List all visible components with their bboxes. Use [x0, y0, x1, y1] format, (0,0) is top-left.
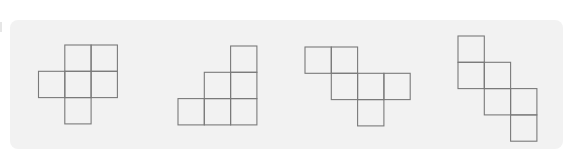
net-square [204, 99, 230, 125]
net-square [178, 99, 204, 125]
net-square [331, 73, 357, 99]
cube-nets-diagram [0, 0, 584, 158]
net-square [484, 62, 510, 88]
net-square [65, 45, 91, 71]
net-1 [39, 45, 118, 124]
net-square [511, 89, 537, 115]
net-square [91, 71, 117, 97]
net-square [91, 45, 117, 71]
net-square [358, 73, 384, 99]
net-square [231, 99, 257, 125]
net-square [511, 115, 537, 141]
net-square [204, 72, 230, 98]
net-square [331, 47, 357, 73]
net-3 [305, 47, 410, 126]
net-square [231, 72, 257, 98]
net-square [458, 62, 484, 88]
net-square [384, 73, 410, 99]
net-2 [178, 46, 257, 125]
net-square [65, 98, 91, 124]
net-square [305, 47, 331, 73]
net-square [65, 71, 91, 97]
net-square [231, 46, 257, 72]
net-square [358, 100, 384, 126]
net-square [458, 36, 484, 62]
net-4 [458, 36, 537, 141]
net-square [484, 89, 510, 115]
net-square [39, 71, 65, 97]
